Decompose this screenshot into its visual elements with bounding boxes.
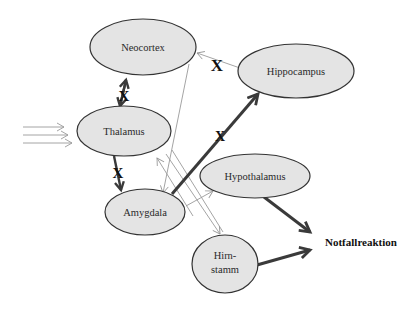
- node-label-hypothalamus: Hypothalamus: [224, 171, 285, 182]
- node-amygdala: Amygdala: [105, 189, 185, 235]
- block-marker-thalamus-amygdala: X: [113, 165, 124, 181]
- node-label-hirnstamm-line2: stamm: [211, 264, 239, 275]
- node-label-hippocampus: Hippocampus: [267, 66, 325, 77]
- node-neocortex: Neocortex: [90, 19, 196, 75]
- node-label-amygdala: Amygdala: [123, 207, 167, 218]
- arrow-hirnstamm-notfallreaktion: [257, 250, 310, 265]
- arrow-hypothalamus-notfallreaktion: [264, 197, 310, 232]
- node-thalamus: Thalamus: [77, 106, 171, 156]
- node-label-neocortex: Neocortex: [121, 42, 165, 53]
- node-hypothalamus: Hypothalamus: [200, 154, 310, 198]
- output-label-notfallreaktion: Notfallreaktion: [325, 236, 397, 248]
- input-arrows: [23, 127, 72, 143]
- node-hirnstamm: Hirn- stamm: [192, 235, 258, 293]
- block-marker-thalamus-neocortex: X: [119, 88, 130, 104]
- block-marker-amygdala-hippocampus: X: [215, 129, 225, 144]
- block-marker-hippocampus-neocortex: X: [211, 56, 224, 75]
- node-hippocampus: Hippocampus: [238, 44, 354, 98]
- diagram-canvas: X X X X Neocortex Hippocampus Thalamus H…: [0, 0, 418, 312]
- node-label-thalamus: Thalamus: [103, 126, 144, 137]
- node-label-hirnstamm-line1: Hirn-: [214, 250, 237, 261]
